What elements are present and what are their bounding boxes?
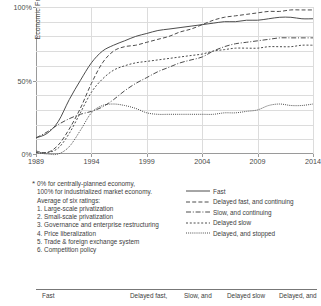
table-header-cell: Fast (42, 292, 54, 300)
legend-label: Delayed fast, and continuing (213, 198, 294, 205)
footnote: * 0% for centrally-planned economy, 100%… (37, 180, 187, 255)
y-axis-label: Economic Freedom* (34, 0, 41, 47)
legend-line-dash-dot-icon (186, 208, 210, 216)
series-line-delayed-slow (36, 45, 313, 153)
x-tick-label: 2004 (194, 157, 210, 166)
legend-label: Delayed, and stopped (213, 230, 275, 237)
plot-area: 198919941999200420092014 100%50%0% Econo… (36, 7, 313, 154)
series-line-delayed-fast-and-continuing (36, 10, 313, 153)
footnote-line: 5. Trade & foreign exchange system (37, 238, 187, 246)
legend-item-delayed-fast-continuing: Delayed fast, and continuing (186, 197, 318, 208)
table-top-rule (36, 289, 317, 290)
series-line-fast (36, 17, 313, 138)
legend-line-short-dashed-icon (186, 219, 210, 227)
footnote-line: 6. Competition policy (37, 246, 187, 254)
legend-line-dotted-icon (186, 229, 210, 237)
footnote-line: 100% for industrialized market economy. (37, 188, 187, 196)
vertical-gridline (313, 7, 314, 154)
x-tick-label: 1999 (139, 157, 155, 166)
table-header-row: Fast Delayed fast, Slow, and Delayed slo… (36, 292, 317, 306)
x-tick-label: 2009 (250, 157, 266, 166)
legend: Fast Delayed fast, and continuing Slow, … (186, 186, 318, 239)
legend-item-fast: Fast (186, 186, 318, 197)
footnote-line: 2. Small-scale privatization (37, 213, 187, 221)
series-lines (36, 7, 313, 154)
x-tick-label: 1994 (83, 157, 99, 166)
x-tick-label: 2014 (305, 157, 321, 166)
footnote-line: 0% for centrally-planned economy, (37, 180, 187, 188)
legend-item-delayed-slow: Delayed slow (186, 218, 318, 229)
series-line-delayed-and-stopped (36, 104, 313, 155)
legend-label: Delayed slow (213, 219, 251, 226)
table-header-cell: Delayed, and (279, 292, 317, 300)
y-tick-label: 100% (14, 3, 32, 12)
footnote-line: 1. Large-scale privatization (37, 205, 187, 213)
legend-label: Slow, and continuing (213, 209, 272, 216)
footnote-line: 3. Governance and enterprise restructuri… (37, 221, 187, 229)
legend-label: Fast (213, 188, 225, 195)
economic-freedom-chart: 198919941999200420092014 100%50%0% Econo… (0, 0, 321, 306)
footnote-line: 4. Price liberalization (37, 230, 187, 238)
y-tick-label: 50% (18, 76, 32, 85)
y-tick-mark (33, 154, 36, 155)
y-tick-label: 0% (22, 150, 32, 159)
legend-line-solid-icon (186, 187, 210, 195)
table-header-cell: Slow, and (184, 292, 212, 300)
table-header-cell: Delayed slow (227, 292, 265, 300)
legend-item-delayed-stopped: Delayed, and stopped (186, 228, 318, 239)
legend-item-slow-continuing: Slow, and continuing (186, 207, 318, 218)
table-header-cell: Delayed fast, (130, 292, 167, 300)
series-line-slow-and-continuing (36, 38, 313, 138)
legend-line-dashed-icon (186, 198, 210, 206)
footnote-line: Average of six ratings: (37, 197, 187, 205)
footnote-marker: * (32, 180, 35, 188)
